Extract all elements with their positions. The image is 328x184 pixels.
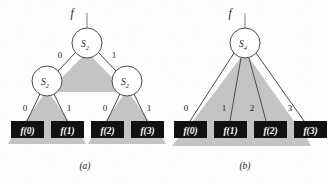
edge-label-b-3: 3 (288, 103, 293, 113)
leaf-label-a-0: f(0) (20, 126, 34, 137)
edge-label-a-1: 1 (112, 50, 117, 60)
input-label-a: f (70, 7, 75, 20)
edge-label-a-0: 0 (58, 50, 63, 60)
leaf-label-b-2: f(2) (263, 126, 277, 137)
leaf-label-a-2: f(2) (100, 126, 114, 137)
leaf-label-b-0: f(0) (183, 126, 197, 137)
leaf-label-a-1: f(1) (60, 126, 74, 137)
input-label-b: f (228, 7, 233, 20)
figure-container: S2 S2 S2 f 0 1 0 1 0 1 f(0) f(1) f(2) f(… (0, 0, 328, 184)
panel-b: S4 f 0 1 2 3 f(0) f(1) f(2) f(3) (b) (172, 7, 327, 172)
edge-label-a-3: 1 (67, 103, 72, 113)
diagram-svg: S2 S2 S2 f 0 1 0 1 0 1 f(0) f(1) f(2) f(… (0, 0, 328, 184)
caption-b: (b) (239, 161, 250, 172)
edge-label-b-1: 1 (222, 103, 227, 113)
edge-label-b-2: 2 (250, 103, 255, 113)
leaf-label-b-1: f(1) (223, 126, 237, 137)
caption-a: (a) (79, 161, 90, 172)
edge-label-a-4: 0 (103, 103, 108, 113)
edge-label-a-5: 1 (147, 103, 152, 113)
edge-label-b-0: 0 (184, 103, 189, 113)
leaf-label-a-3: f(3) (140, 126, 154, 137)
edge-label-a-2: 0 (23, 103, 28, 113)
panel-a: S2 S2 S2 f 0 1 0 1 0 1 f(0) f(1) f(2) f(… (8, 7, 166, 172)
leaf-label-b-3: f(3) (303, 126, 317, 137)
